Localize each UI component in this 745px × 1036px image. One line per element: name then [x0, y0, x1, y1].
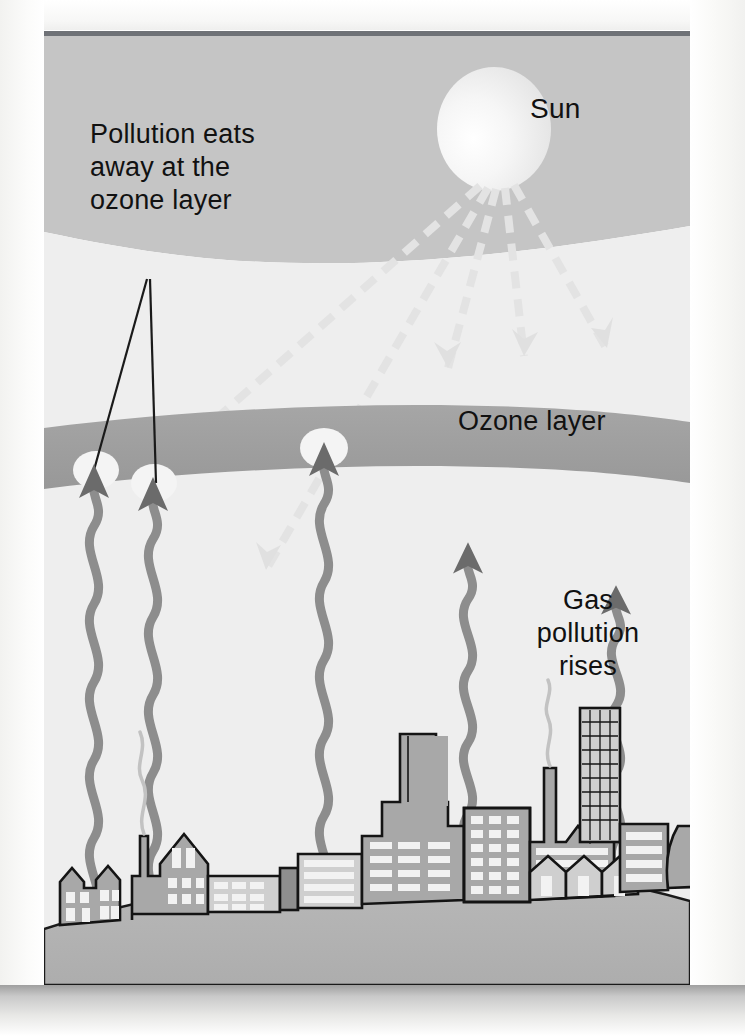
page: Pollution eats away at the ozone layer S…: [0, 0, 745, 1036]
page-left-margin: [0, 0, 44, 1036]
building-low-block: [208, 876, 280, 912]
building-lattice-tower: [580, 708, 620, 842]
label-gas-line3: rises: [508, 650, 668, 683]
label-gas-pollution-rises: Gas pollution rises: [508, 584, 668, 683]
building-banded-midrise: [298, 854, 362, 908]
label-pollution-note: Pollution eats away at the ozone layer: [90, 118, 255, 217]
page-top-margin: [0, 0, 745, 30]
building-grid-tower: [464, 808, 530, 902]
label-pollution-line3: ozone layer: [90, 184, 255, 217]
building-right-banded-tower: [620, 824, 668, 892]
building-dotted-slab: [410, 736, 448, 806]
page-bottom-margin: [0, 985, 745, 1036]
label-sun: Sun: [530, 93, 580, 125]
sun-icon: [437, 67, 551, 191]
label-pollution-line2: away at the: [90, 151, 255, 184]
building-narrow-slab: [280, 868, 298, 910]
label-ozone-layer: Ozone layer: [458, 406, 606, 437]
label-gas-line2: pollution: [508, 617, 668, 650]
page-right-margin: [690, 0, 745, 1036]
label-pollution-line1: Pollution eats: [90, 118, 255, 151]
label-gas-line1: Gas: [508, 584, 668, 617]
